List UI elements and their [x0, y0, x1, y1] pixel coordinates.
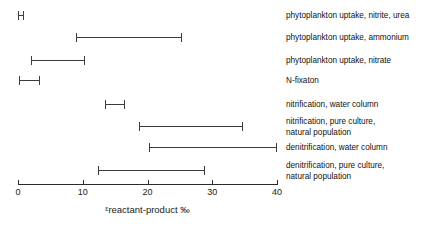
x-axis-tick — [212, 180, 213, 185]
category-label: phytoplankton uptake, nitrite, urea — [286, 11, 437, 22]
x-axis: 0 10 20 30 40 εreactant-product ‰ — [0, 184, 285, 228]
category-labels: phytoplankton uptake, nitrite, urea phyt… — [286, 0, 437, 200]
category-label: nitrification, water column — [286, 100, 437, 111]
range-line — [31, 60, 85, 61]
x-axis-tick-label: 0 — [15, 187, 20, 198]
plot-area — [0, 0, 285, 200]
x-axis-tick — [18, 180, 19, 185]
x-axis-tick-label: 30 — [207, 187, 217, 198]
x-axis-title-main: reactant-product — [108, 204, 177, 215]
range-line — [105, 104, 125, 105]
x-axis-tick — [83, 180, 84, 185]
range-row — [105, 99, 125, 111]
x-axis-tick-label: 20 — [142, 187, 152, 198]
permil-symbol: ‰ — [180, 204, 190, 215]
range-row — [18, 10, 24, 22]
range-end-cap-high — [276, 143, 277, 152]
range-line — [76, 37, 182, 38]
x-axis-tick-label: 10 — [78, 187, 88, 198]
range-end-cap-high — [181, 33, 182, 42]
range-end-cap-high — [84, 56, 85, 65]
range-chart-figure: 0 10 20 30 40 εreactant-product ‰ phytop… — [0, 0, 437, 228]
x-axis-tick-label: 40 — [272, 187, 282, 198]
range-line — [139, 126, 243, 127]
category-label: N-fixaton — [286, 76, 437, 87]
range-line — [19, 80, 40, 81]
range-end-cap-high — [242, 122, 243, 131]
range-end-cap-high — [23, 11, 24, 20]
category-label: nitrification, pure culture, natural pop… — [286, 117, 437, 138]
range-row — [76, 32, 182, 44]
range-end-cap-high — [124, 100, 125, 109]
category-label: denitrification, water column — [286, 143, 437, 154]
x-axis-title: εreactant-product ‰ — [18, 203, 277, 216]
category-label: phytoplankton uptake, ammonium — [286, 33, 437, 44]
range-line — [149, 147, 277, 148]
x-axis-tick — [148, 180, 149, 185]
range-row — [19, 75, 40, 87]
range-line — [98, 170, 205, 171]
x-axis-tick — [277, 180, 278, 185]
range-end-cap-high — [204, 166, 205, 175]
category-label: denitrification, pure culture, natural p… — [286, 161, 437, 182]
category-label: phytoplankton uptake, nitrate — [286, 56, 437, 67]
range-row — [139, 121, 243, 133]
range-row — [31, 55, 85, 67]
range-end-cap-high — [39, 76, 40, 85]
range-row — [149, 142, 277, 154]
range-row — [98, 165, 205, 177]
